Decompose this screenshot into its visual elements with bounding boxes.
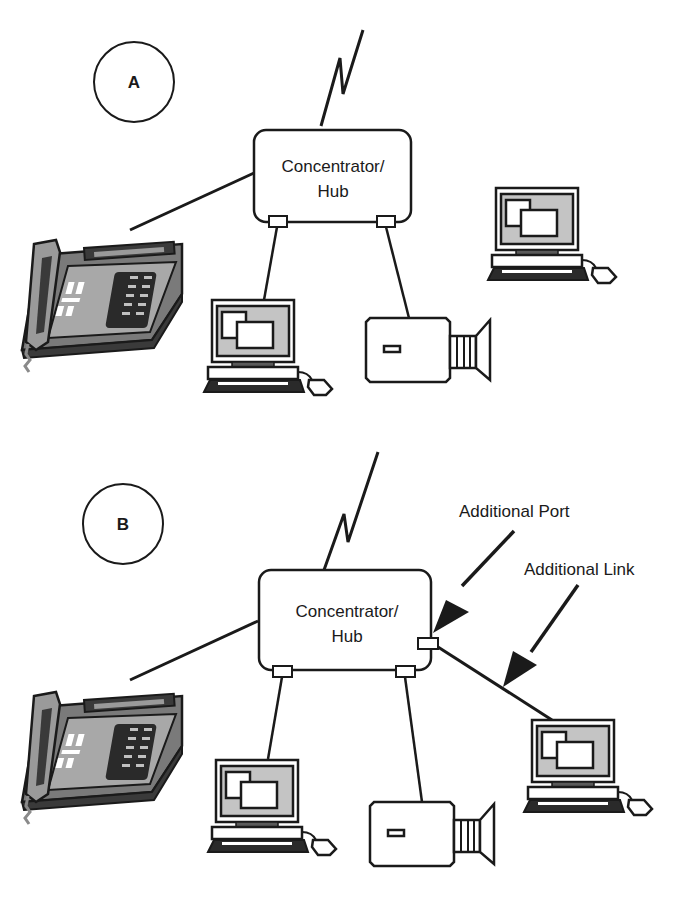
hub-port-1 — [273, 666, 292, 677]
link-hub-telephone — [130, 173, 254, 230]
link-hub-telephone — [130, 621, 258, 680]
panel-b-label: B — [117, 515, 129, 534]
arrow-head-icon — [503, 651, 537, 687]
network-diagram: A Concentrator/ Hub B — [0, 0, 693, 905]
link-hub-computer — [268, 677, 282, 759]
hub-port-2 — [377, 216, 395, 227]
hub-label-line2: Hub — [331, 627, 362, 646]
callout-additional-link-label: Additional Link — [524, 560, 635, 579]
wan-link-icon — [324, 452, 378, 570]
computer-icon — [204, 300, 332, 395]
arrow-line — [531, 585, 578, 652]
hub-port-1 — [269, 216, 287, 227]
additional-computer-icon — [524, 720, 652, 815]
callout-additional-link: Additional Link — [503, 560, 635, 687]
panel-a: A Concentrator/ Hub — [22, 30, 616, 395]
unconnected-computer-icon — [488, 188, 616, 283]
link-hub-camera — [386, 227, 409, 318]
hub-port-2 — [396, 666, 415, 677]
link-hub-computer — [264, 227, 277, 300]
telephone-icon — [22, 240, 182, 372]
link-hub-camera — [405, 677, 422, 802]
hub-label-line1: Concentrator/ — [282, 157, 385, 176]
telephone-icon — [22, 692, 182, 824]
additional-link — [438, 647, 552, 720]
additional-port — [418, 638, 438, 649]
hub-box — [254, 130, 411, 222]
panel-b: B Concentrator/ Hub Additional Port Addi… — [22, 452, 652, 866]
video-camera-icon — [370, 802, 494, 866]
wan-link-icon — [321, 30, 363, 126]
hub-b: Concentrator/ Hub — [259, 570, 438, 677]
arrow-line — [462, 531, 514, 586]
hub-label-line2: Hub — [317, 182, 348, 201]
panel-a-label: A — [128, 73, 140, 92]
video-camera-icon — [366, 318, 490, 382]
computer-icon — [208, 760, 336, 855]
arrow-head-icon — [433, 600, 469, 633]
callout-additional-port-label: Additional Port — [459, 502, 570, 521]
hub-label-line1: Concentrator/ — [296, 602, 399, 621]
hub-a: Concentrator/ Hub — [254, 130, 411, 227]
